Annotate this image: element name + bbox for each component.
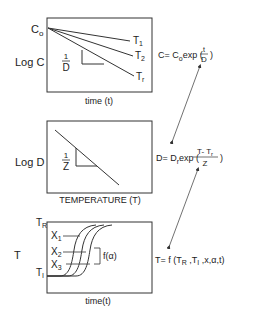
tr-label: TR — [36, 217, 47, 229]
series-label-tr: Tr — [136, 71, 145, 83]
position-x3: X3 — [51, 259, 62, 271]
relation-arrow-1 — [172, 66, 200, 142]
equation-d: D= Drexp ( T- Tr Z ) — [156, 147, 223, 168]
kinetics-diagram: Co Log C 1 D T1 T2 Tr time (t) C= Coexp … — [0, 0, 253, 318]
series-label-t1: T1 — [133, 35, 143, 47]
svg-text:D= Drexp (: D= Drexp ( — [156, 153, 199, 165]
svg-text:Z: Z — [203, 159, 208, 168]
c0-label: Co — [31, 23, 44, 38]
y-axis-label: Log C — [15, 56, 44, 68]
plot-frame — [47, 222, 152, 293]
relation-arrow-2 — [169, 169, 198, 247]
f-alpha-bracket — [94, 248, 100, 264]
x-axis-label: time(t) — [85, 296, 111, 306]
equation-t: T= f (TR ,TI ,x,α,t) — [155, 255, 224, 266]
svg-text:t: t — [203, 46, 205, 53]
svg-text:): ) — [220, 153, 223, 163]
panel-concentration: Co Log C 1 D T1 T2 Tr time (t) C= Coexp … — [15, 18, 213, 106]
x-axis-label: time (t) — [85, 96, 113, 106]
ti-label: TI — [36, 267, 44, 279]
svg-text:C= Coexp (: C= Coexp ( — [158, 50, 203, 62]
x-axis-label: TEMPERATURE (T) — [59, 195, 140, 205]
equation-c: C= Coexp ( t D ) — [158, 46, 213, 64]
slope-num: 1 — [64, 151, 69, 160]
slope-den: Z — [63, 161, 69, 172]
y-axis-label: Log D — [15, 156, 44, 168]
position-x1: X1 — [51, 230, 62, 242]
f-alpha-label: f(α) — [103, 251, 117, 261]
y-axis-label: T — [14, 249, 21, 261]
svg-text:T= f (TR ,TI ,x,α,t): T= f (TR ,TI ,x,α,t) — [155, 255, 224, 266]
panel-temperature: T TR TI X1 X2 X3 f(α) time(t) T= f (TR ,… — [14, 217, 224, 306]
svg-text:D: D — [201, 55, 207, 64]
svg-text:T- Tr: T- Tr — [197, 147, 213, 157]
series-label-t2: T2 — [135, 50, 145, 62]
plot-frame — [47, 121, 152, 193]
slope-num: 1 — [64, 52, 69, 61]
position-x2: X2 — [51, 246, 62, 258]
slope-den: D — [62, 62, 69, 73]
svg-text:): ) — [210, 50, 213, 60]
panel-d-value: Log D 1 Z TEMPERATURE (T) D= Drexp ( T- … — [15, 121, 223, 205]
